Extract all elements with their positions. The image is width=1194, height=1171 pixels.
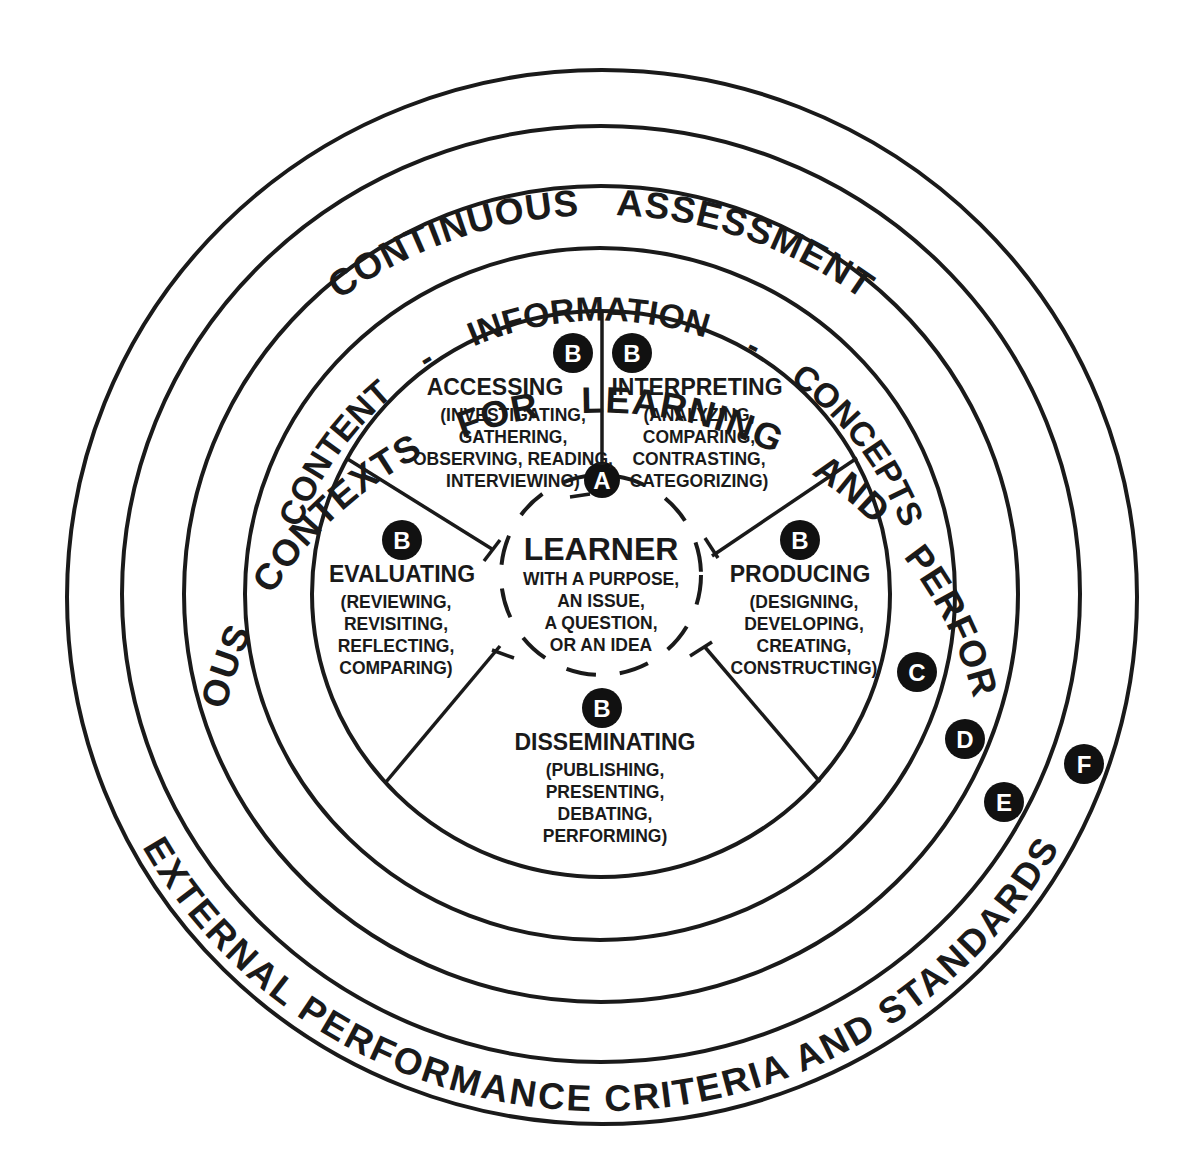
svg-text:B: B — [593, 695, 610, 722]
segment-line: PRESENTING, — [546, 782, 665, 802]
svg-text:B: B — [791, 527, 808, 554]
svg-text:D: D — [956, 726, 973, 753]
band-external-criteria: EXTERNAL PERFORMANCE CRITERIA AND STANDA… — [135, 830, 1067, 1120]
segment-line: COMPARING) — [339, 658, 452, 678]
svg-text:B: B — [393, 527, 410, 554]
learner-line-2: AN ISSUE, — [557, 591, 645, 611]
svg-text:C: C — [908, 659, 925, 686]
segment-line: CONSTRUCTING) — [731, 658, 878, 678]
segment-line: (INVESTIGATING, — [440, 405, 586, 425]
segment-title: INTERPRETING — [611, 374, 782, 400]
segment-line: GATHERING, — [459, 427, 568, 447]
segment-line: DEVELOPING, — [744, 614, 864, 634]
svg-text:E: E — [996, 789, 1012, 816]
segment-title: PRODUCING — [730, 561, 871, 587]
badge-e-icon: E — [984, 782, 1024, 822]
badge-b-icon: B — [382, 520, 422, 560]
segment-line: CREATING, — [757, 636, 852, 656]
segment-disseminating: B DISSEMINATING (PUBLISHING, PRESENTING,… — [514, 688, 695, 846]
segment-producing: B PRODUCING (DESIGNING, DEVELOPING, CREA… — [730, 520, 878, 678]
segment-line: (PUBLISHING, — [546, 760, 665, 780]
segment-line: PERFORMING) — [543, 826, 667, 846]
segment-line: (DESIGNING, — [750, 592, 859, 612]
segment-line: OBSERVING, READING, — [413, 449, 613, 469]
segment-line: COMPARING, — [643, 427, 755, 447]
svg-text:B: B — [564, 340, 581, 367]
segment-title: DISSEMINATING — [514, 729, 695, 755]
segment-line: REVISITING, — [344, 614, 448, 634]
badge-c-icon: C — [897, 652, 937, 692]
svg-text:A: A — [593, 467, 610, 494]
learner-title: LEARNER — [524, 531, 679, 567]
learning-model-diagram: EXTERNAL PERFORMANCE CRITERIA AND STANDA… — [0, 0, 1194, 1171]
band-continuous-assessment: CONTINUOUS ASSESSMENT — [320, 182, 881, 306]
svg-text:B: B — [623, 340, 640, 367]
segment-line: (REVIEWING, — [341, 592, 452, 612]
svg-text:F: F — [1077, 751, 1092, 778]
segment-line: CONTRASTING, — [632, 449, 765, 469]
badge-d-icon: D — [945, 719, 985, 759]
learner-line-4: OR AN IDEA — [550, 635, 653, 655]
segment-title: EVALUATING — [329, 561, 475, 587]
segment-line: CATEGORIZING) — [630, 471, 769, 491]
segment-line: DEBATING, — [558, 804, 653, 824]
badge-b-icon: B — [553, 333, 593, 373]
badge-f-icon: F — [1064, 744, 1104, 784]
segment-title: ACCESSING — [427, 374, 564, 400]
badge-b-icon: B — [780, 520, 820, 560]
segment-line: (ANALYZING, — [643, 405, 754, 425]
learner-line-1: WITH A PURPOSE, — [523, 569, 679, 589]
learner-line-3: A QUESTION, — [544, 613, 657, 633]
segment-evaluating: B EVALUATING (REVIEWING, REVISITING, REF… — [329, 520, 475, 678]
segment-line: REFLECTING, — [338, 636, 455, 656]
segment-line: INTERVIEWING) — [446, 471, 580, 491]
badge-b-icon: B — [612, 333, 652, 373]
badge-b-icon: B — [582, 688, 622, 728]
